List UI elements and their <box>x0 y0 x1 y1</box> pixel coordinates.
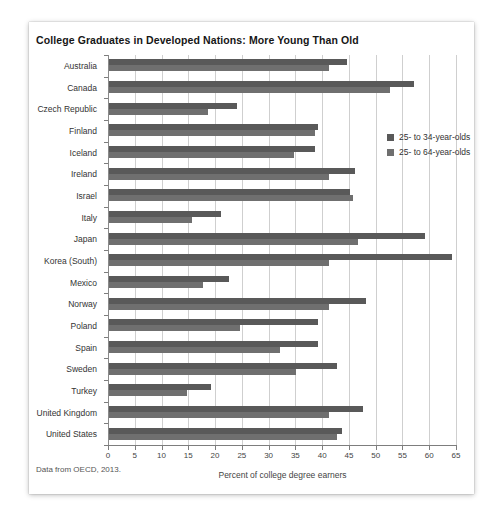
legend-label-young: 25- to 34-year-olds <box>399 132 470 142</box>
x-tick-mark <box>376 446 377 450</box>
legend-item-young: 25- to 34-year-olds <box>387 132 470 142</box>
y-axis-label-united-states: United States <box>46 429 97 439</box>
x-tick-label: 0 <box>96 451 120 460</box>
y-axis-label-united-kingdom: United Kingdom <box>37 408 97 418</box>
y-tick-mark <box>104 207 108 208</box>
y-tick-mark <box>104 293 108 294</box>
x-tick-mark <box>269 446 270 450</box>
y-tick-mark <box>104 185 108 186</box>
x-tick-label: 45 <box>337 451 361 460</box>
x-tick-mark <box>429 446 430 450</box>
gridline <box>429 55 430 445</box>
y-tick-mark <box>104 98 108 99</box>
x-tick-label: 65 <box>444 451 468 460</box>
y-tick-mark <box>104 142 108 143</box>
bar-allages <box>109 325 240 331</box>
legend-item-allages: 25- to 64-year-olds <box>387 147 470 157</box>
bar-allages <box>109 369 296 375</box>
bar-allages <box>109 347 280 353</box>
legend-swatch-allages <box>387 149 394 156</box>
plot-area <box>108 55 456 445</box>
bar-allages <box>109 390 187 396</box>
y-axis-label-australia: Australia <box>64 61 97 71</box>
x-tick-label: 5 <box>123 451 147 460</box>
x-tick-label: 20 <box>203 451 227 460</box>
x-tick-label: 40 <box>310 451 334 460</box>
y-axis-label-sweden: Sweden <box>66 364 97 374</box>
gridline <box>456 55 457 445</box>
gridline <box>402 55 403 445</box>
bar-allages <box>109 239 358 245</box>
y-axis-label-iceland: Iceland <box>70 148 97 158</box>
x-tick-mark <box>402 446 403 450</box>
gridline <box>242 55 243 445</box>
y-tick-mark <box>104 228 108 229</box>
x-tick-label: 15 <box>176 451 200 460</box>
y-axis-label-canada: Canada <box>67 83 97 93</box>
y-tick-mark <box>104 380 108 381</box>
y-axis-label-turkey: Turkey <box>71 386 97 396</box>
y-axis-label-israel: Israel <box>76 191 97 201</box>
bar-allages <box>109 109 208 115</box>
gridline <box>349 55 350 445</box>
y-tick-mark <box>104 163 108 164</box>
bar-allages <box>109 260 329 266</box>
x-tick-mark <box>108 446 109 450</box>
x-tick-mark <box>188 446 189 450</box>
y-tick-mark <box>104 77 108 78</box>
bar-allages <box>109 65 329 71</box>
y-axis-label-mexico: Mexico <box>70 278 97 288</box>
x-tick-mark <box>242 446 243 450</box>
gridline <box>269 55 270 445</box>
y-tick-mark <box>104 337 108 338</box>
y-axis-label-finland: Finland <box>69 126 97 136</box>
y-tick-mark <box>104 272 108 273</box>
y-tick-mark <box>104 120 108 121</box>
source-note: Data from OECD, 2013. <box>36 465 121 474</box>
bar-allages <box>109 174 329 180</box>
y-tick-mark <box>104 402 108 403</box>
x-tick-label: 25 <box>230 451 254 460</box>
x-tick-label: 30 <box>257 451 281 460</box>
gridline <box>322 55 323 445</box>
chart-card: College Graduates in Developed Nations: … <box>29 22 474 494</box>
bar-allages <box>109 434 337 440</box>
x-tick-mark <box>162 446 163 450</box>
y-axis-label-japan: Japan <box>74 234 97 244</box>
y-tick-mark <box>104 250 108 251</box>
gridline <box>295 55 296 445</box>
bar-allages <box>109 304 329 310</box>
x-tick-mark <box>215 446 216 450</box>
bar-allages <box>109 195 353 201</box>
gridline <box>215 55 216 445</box>
legend-label-allages: 25- to 64-year-olds <box>399 147 470 157</box>
y-tick-mark <box>104 445 108 446</box>
bar-allages <box>109 152 294 158</box>
x-tick-mark <box>135 446 136 450</box>
bar-allages <box>109 87 390 93</box>
y-axis-label-poland: Poland <box>71 321 97 331</box>
bar-allages <box>109 282 203 288</box>
y-tick-mark <box>104 55 108 56</box>
y-tick-mark <box>104 423 108 424</box>
gridline <box>376 55 377 445</box>
y-tick-mark <box>104 358 108 359</box>
x-tick-label: 35 <box>283 451 307 460</box>
x-tick-mark <box>295 446 296 450</box>
y-axis-label-italy: Italy <box>81 213 97 223</box>
chart-title: College Graduates in Developed Nations: … <box>36 34 359 46</box>
y-axis-label-norway: Norway <box>68 299 97 309</box>
legend-swatch-young <box>387 134 394 141</box>
x-tick-label: 10 <box>150 451 174 460</box>
x-tick-mark <box>456 446 457 450</box>
bar-allages <box>109 130 315 136</box>
x-tick-mark <box>322 446 323 450</box>
y-axis-label-korea-south: Korea (South) <box>44 256 97 266</box>
x-tick-label: 60 <box>417 451 441 460</box>
x-tick-label: 55 <box>390 451 414 460</box>
bar-allages <box>109 412 329 418</box>
x-tick-mark <box>349 446 350 450</box>
bar-allages <box>109 217 192 223</box>
y-axis-label-czech-republic: Czech Republic <box>37 104 97 114</box>
x-axis-label: Percent of college degree earners <box>108 470 457 480</box>
